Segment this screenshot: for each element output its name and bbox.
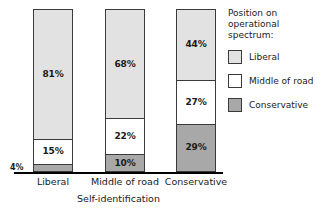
bar-middle-of-road: 68% 22% 10% bbox=[105, 9, 145, 172]
bar-segment-label: 27% bbox=[185, 98, 206, 107]
bar-segment-label: 10% bbox=[114, 159, 135, 168]
bar-segment-label: 29% bbox=[185, 143, 206, 152]
legend: Position on operational spectrum: Libera… bbox=[228, 8, 323, 122]
bar-segment-label: 15% bbox=[42, 147, 63, 156]
bar-segment-conservative-conservative: 29% bbox=[177, 124, 215, 171]
x-axis-tick-label-conservative: Conservative bbox=[141, 177, 251, 187]
legend-title: Position on operational spectrum: bbox=[228, 8, 323, 41]
bar-segment-liberal-conservative: 4% bbox=[34, 164, 72, 171]
legend-item-liberal: Liberal bbox=[228, 50, 323, 64]
bar-segment-conservative-middle: 27% bbox=[177, 80, 215, 124]
legend-label-middle-of-road: Middle of road bbox=[249, 77, 313, 86]
bar-segment-middle-middle: 22% bbox=[106, 118, 144, 154]
bar-segment-liberal-liberal: 81% bbox=[34, 10, 72, 139]
x-axis-title: Self-identification bbox=[14, 194, 223, 204]
stacked-bar-chart: 81% 15% 4% 68% 22% 10% 44% bbox=[0, 0, 323, 209]
legend-swatch-icon-liberal bbox=[228, 50, 242, 64]
legend-label-conservative: Conservative bbox=[249, 101, 308, 110]
bar-segment-label: 44% bbox=[185, 40, 206, 49]
bar-segment-label: 4% bbox=[10, 164, 23, 172]
bar-segment-middle-liberal: 68% bbox=[106, 10, 144, 118]
bar-segment-label: 22% bbox=[114, 132, 135, 141]
bar-conservative: 44% 27% 29% bbox=[176, 9, 216, 172]
plot-area: 81% 15% 4% 68% 22% 10% 44% bbox=[0, 0, 225, 178]
bar-segment-middle-conservative: 10% bbox=[106, 154, 144, 171]
legend-label-liberal: Liberal bbox=[249, 53, 279, 62]
x-axis-line bbox=[14, 172, 223, 174]
legend-item-middle-of-road: Middle of road bbox=[228, 74, 323, 88]
legend-item-conservative: Conservative bbox=[228, 98, 323, 112]
bar-segment-liberal-middle: 15% bbox=[34, 139, 72, 164]
legend-swatch-icon-middle-of-road bbox=[228, 74, 242, 88]
legend-swatch-icon-conservative bbox=[228, 98, 242, 112]
bar-segment-label: 68% bbox=[114, 60, 135, 69]
bar-segment-label: 81% bbox=[42, 70, 63, 79]
bar-segment-conservative-liberal: 44% bbox=[177, 10, 215, 80]
bar-liberal: 81% 15% 4% bbox=[33, 9, 73, 172]
